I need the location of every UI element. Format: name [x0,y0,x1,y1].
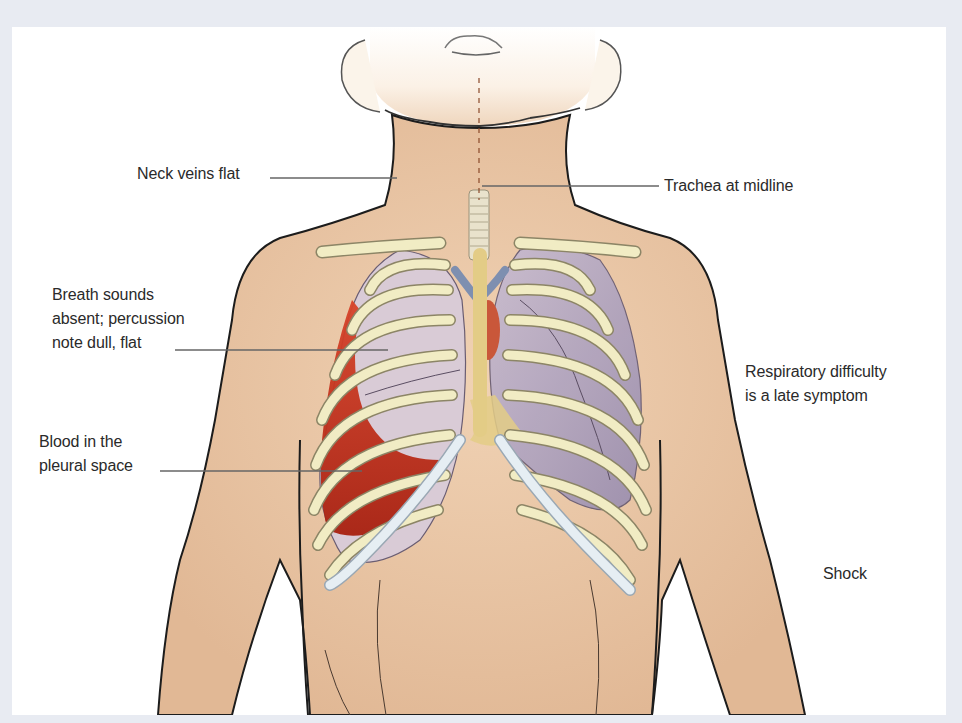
head [341,27,620,126]
label-respiratory: Respiratory difficulty is a late symptom [745,360,887,408]
label-neck-veins: Neck veins flat [137,163,240,185]
label-breath-sounds: Breath sounds absent; percussion note du… [52,283,185,355]
diagram-panel: Neck veins flat Trachea at midline Breat… [12,27,946,715]
label-shock: Shock [823,563,867,585]
label-blood-pleural: Blood in the pleural space [39,430,133,478]
label-trachea: Trachea at midline [664,175,793,197]
